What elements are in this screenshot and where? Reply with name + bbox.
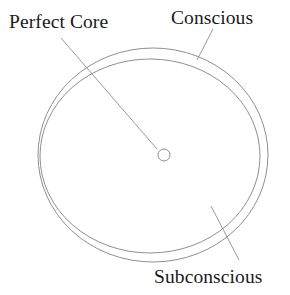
diagram-graphics (0, 0, 290, 295)
subconscious-label: Subconscious (154, 267, 262, 287)
perfect-core-leader-line (61, 38, 157, 149)
perfect-core-dot (158, 149, 170, 161)
perfect-core-label: Perfect Core (9, 12, 108, 32)
conscious-ring-ellipse (38, 48, 268, 262)
conscious-label: Conscious (171, 8, 253, 28)
diagram-canvas: Perfect Core Conscious Subconscious (0, 0, 290, 295)
subconscious-ring-ellipse (40, 59, 260, 253)
conscious-leader-line (197, 29, 213, 60)
subconscious-leader-line (211, 206, 239, 260)
